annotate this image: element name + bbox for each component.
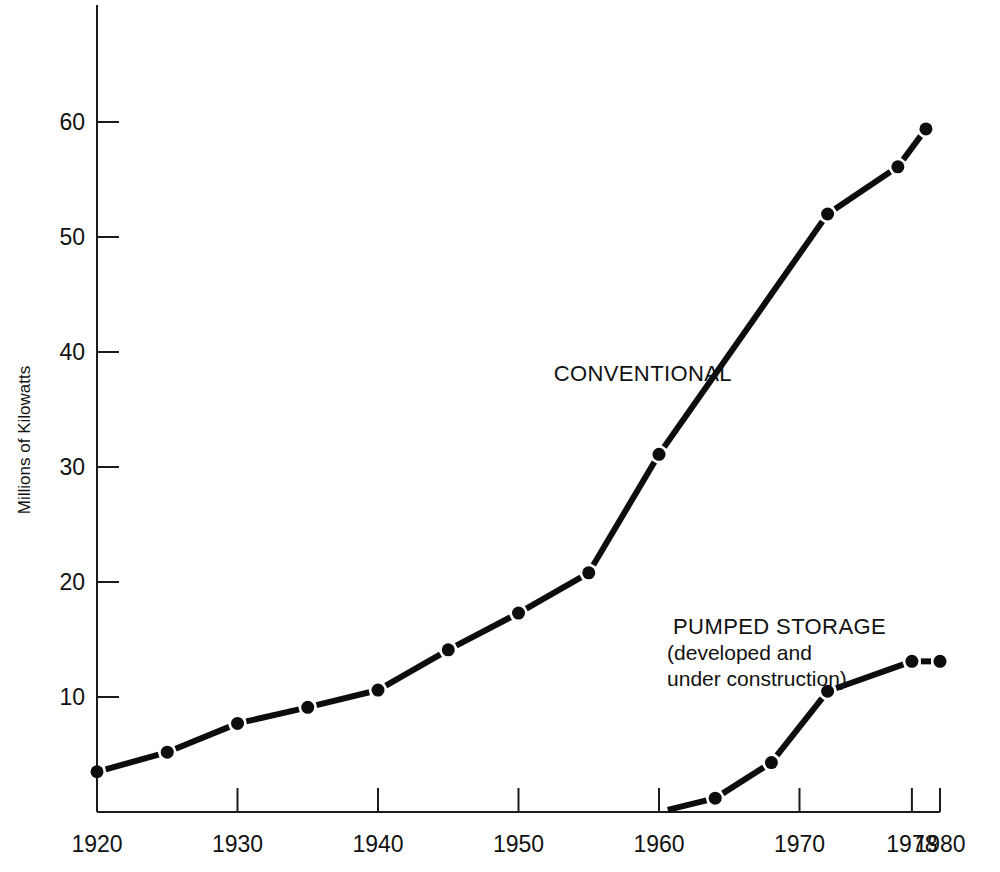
y-tick-label: 30: [59, 454, 85, 480]
y-tick-label: 20: [59, 569, 85, 595]
data-point: [161, 746, 174, 759]
series-annotations: CONVENTIONALPUMPED STORAGE(developed and…: [554, 361, 886, 690]
series-segment: [246, 709, 299, 721]
data-point: [91, 765, 104, 778]
data-series: [91, 122, 947, 809]
data-point: [653, 448, 666, 461]
series-annotation-sublabel: (developed and: [667, 641, 812, 664]
series-segment: [593, 462, 654, 565]
data-point: [301, 701, 314, 714]
x-tick-label: 1970: [774, 831, 825, 857]
series-segment: [723, 767, 764, 793]
series-segment: [526, 577, 581, 608]
y-tick-label: 40: [59, 339, 85, 365]
data-point: [372, 684, 385, 697]
series-annotation-label: CONVENTIONAL: [554, 361, 732, 386]
data-point: [905, 655, 918, 668]
data-point: [231, 717, 244, 730]
y-tick-label: 60: [59, 109, 85, 135]
data-point: [891, 160, 904, 173]
series-annotation-sublabel: under construction): [667, 667, 847, 690]
x-tick-label: 1930: [212, 831, 263, 857]
series-segment: [386, 654, 441, 685]
data-point: [442, 643, 455, 656]
y-axis-title: Millions of Kilowatts: [15, 366, 34, 514]
series-segment: [777, 698, 822, 755]
data-point: [919, 122, 932, 135]
data-point: [512, 607, 525, 620]
x-tick-label: 1920: [71, 831, 122, 857]
data-point: [821, 208, 834, 221]
data-point: [709, 792, 722, 805]
series-segment: [176, 727, 230, 749]
series-segment: [903, 136, 920, 159]
series-segment: [835, 172, 890, 209]
series-segment: [316, 692, 369, 705]
series-segment: [106, 755, 159, 770]
x-tick-label: 1980: [914, 831, 965, 857]
chart-container: 1020304050601920193019401950196019701978…: [0, 0, 1000, 872]
data-point: [582, 566, 595, 579]
y-tick-label: 10: [59, 684, 85, 710]
data-point: [934, 655, 947, 668]
line-chart: 1020304050601920193019401950196019701978…: [0, 0, 1000, 872]
x-tick-label: 1950: [493, 831, 544, 857]
x-tick-label: 1940: [352, 831, 403, 857]
x-tick-label: 1960: [633, 831, 684, 857]
series-segment: [668, 800, 707, 810]
series-segment: [664, 221, 822, 447]
axes: [97, 5, 940, 812]
series-segment: [456, 617, 510, 645]
y-tick-label: 50: [59, 224, 85, 250]
data-point: [765, 756, 778, 769]
series-annotation-label: PUMPED STORAGE: [673, 614, 886, 639]
axis-tick-labels: 1020304050601920193019401950196019701978…: [59, 109, 965, 857]
